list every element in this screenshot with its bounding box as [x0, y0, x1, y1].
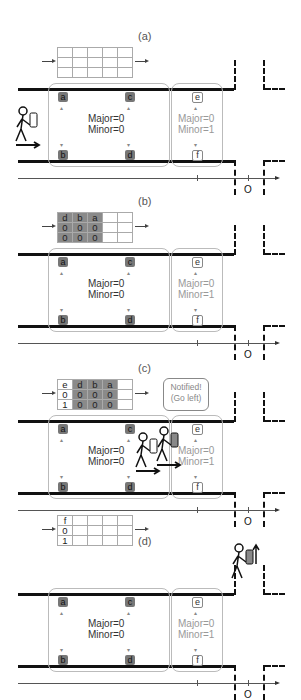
buffer-row: 1: [58, 536, 133, 546]
axis-tick: [197, 680, 198, 686]
beacon-f: f: [192, 482, 203, 493]
signal-icon: ▾: [127, 306, 130, 313]
zone1-major: Major=0: [88, 618, 124, 629]
door-dashed-line: [234, 665, 236, 700]
buffer-cell: 0: [58, 223, 73, 233]
zone2-minor: Minor=1: [178, 629, 214, 640]
buffer-cell: 0: [103, 400, 118, 410]
buffer-cell: [58, 58, 73, 68]
buffer-cell: [88, 536, 103, 546]
buffer-cell: [118, 390, 133, 400]
buffer-input-arrow-icon: [42, 393, 54, 394]
buffer-cell: [103, 213, 118, 223]
zone2-label: Major=0Minor=1: [178, 618, 214, 640]
signal-icon: ▴: [60, 104, 63, 111]
buffer-cell: [118, 213, 133, 223]
buffer-cell: [73, 58, 88, 68]
buffer-cell: [103, 68, 118, 78]
signal-icon: ▾: [194, 646, 197, 653]
door-dashed-line: [265, 160, 285, 162]
zone2-major: Major=0: [178, 278, 214, 289]
buffer-cell: 1: [58, 400, 73, 410]
beacon-c: c: [125, 92, 135, 102]
scan-buffer-table: dba000000: [57, 212, 133, 243]
zone1-label: Major=0Minor=0: [88, 278, 124, 300]
buffer-cell: 0: [73, 223, 88, 233]
buffer-cell: [118, 223, 133, 233]
door-dashed-line: [265, 253, 285, 255]
axis-tick: [248, 680, 249, 686]
signal-icon: ▴: [127, 609, 130, 616]
signal-icon: ▴: [127, 104, 130, 111]
buffer-cell: 0: [73, 390, 88, 400]
signal-icon: ▴: [60, 269, 63, 276]
buffer-cell: [118, 380, 133, 390]
panel-label: (b): [138, 195, 151, 207]
beacon-f: f: [192, 655, 203, 666]
beacon-a: a: [58, 92, 68, 102]
buffer-cell: a: [88, 213, 103, 223]
zone2-minor: Minor=1: [178, 289, 214, 300]
beacon-d: d: [125, 315, 135, 325]
beacon-a: a: [58, 257, 68, 267]
signal-icon: ▾: [194, 141, 197, 148]
buffer-row: 1000: [58, 400, 133, 410]
walking-person-with-phone-icon: [155, 425, 195, 469]
beacon-e: e: [192, 597, 203, 608]
beacon-b: b: [58, 655, 68, 665]
panel-b: (b)dba000000a▴c▴e▴b▾d▾f▾Major=0Minor=0Ma…: [0, 165, 301, 335]
signal-icon: ▾: [60, 306, 63, 313]
panel-c: (c)edba00001000a▴c▴e▴b▾d▾f▾Major=0Minor=…: [0, 332, 301, 502]
beacon-b: b: [58, 315, 68, 325]
buffer-cell: 0: [88, 223, 103, 233]
buffer-row: 000: [58, 223, 133, 233]
zone1-label: Major=0Minor=0: [88, 445, 124, 467]
beacon-b: b: [58, 482, 68, 492]
door-dashed-line: [263, 665, 265, 700]
buffer-row: 000: [58, 233, 133, 243]
door-dashed-line: [265, 665, 285, 667]
walking-person-with-phone-icon: [14, 105, 54, 149]
buffer-cell: [103, 58, 118, 68]
buffer-cell: d: [58, 213, 73, 223]
signal-icon: ▾: [127, 646, 130, 653]
buffer-cell: [103, 223, 118, 233]
buffer-cell: [58, 48, 73, 58]
door-dashed-line: [263, 60, 265, 90]
buffer-output-arrow-icon: [135, 529, 147, 530]
signal-icon: ▴: [194, 609, 197, 616]
beacon-a: a: [58, 424, 68, 434]
scan-buffer-table: f01: [57, 515, 133, 546]
buffer-row: 0: [58, 526, 133, 536]
buffer-cell: b: [73, 213, 88, 223]
buffer-row: edba: [58, 380, 133, 390]
zone2-label: Major=0Minor=1: [178, 278, 214, 300]
buffer-cell: [73, 516, 88, 526]
panel-label: (c): [138, 362, 151, 374]
beacon-d: d: [125, 655, 135, 665]
buffer-input-arrow-icon: [42, 226, 54, 227]
zone2-major: Major=0: [178, 618, 214, 629]
buffer-cell: [118, 48, 133, 58]
buffer-cell: 0: [88, 233, 103, 243]
buffer-cell: [88, 48, 103, 58]
panel-label: (d): [138, 535, 151, 547]
zone1-major: Major=0: [88, 278, 124, 289]
beacon-d: d: [125, 150, 135, 160]
panel-d: (d)f01a▴c▴e▴b▾d▾f▾Major=0Minor=0Major=0M…: [0, 505, 301, 675]
buffer-row: dba: [58, 213, 133, 223]
beacon-f: f: [192, 315, 203, 326]
door-dashed-line: [263, 392, 265, 422]
beacon-c: c: [125, 597, 135, 607]
zone1-minor: Minor=0: [88, 456, 124, 467]
signal-icon: ▾: [194, 306, 197, 313]
buffer-cell: [88, 526, 103, 536]
buffer-cell: [103, 526, 118, 536]
notification-callout: Notified!(Go left): [163, 378, 209, 411]
beacon-e: e: [192, 92, 203, 103]
signal-icon: ▴: [194, 269, 197, 276]
walking-person-with-phone-icon: [230, 542, 270, 586]
buffer-cell: 0: [58, 526, 73, 536]
buffer-cell: [73, 536, 88, 546]
signal-icon: ▾: [60, 141, 63, 148]
